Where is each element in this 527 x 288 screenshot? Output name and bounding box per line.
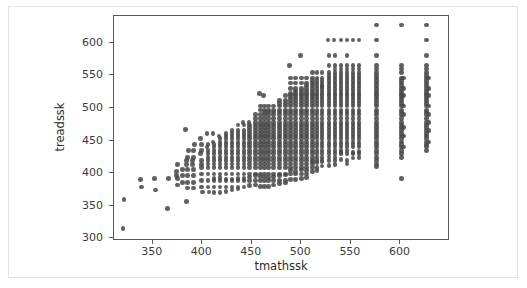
scatter-point <box>304 175 309 180</box>
scatter-point <box>327 131 332 136</box>
scatter-point <box>357 116 362 121</box>
y-axis-tick-label: 400 <box>82 166 103 179</box>
scatter-point <box>424 148 429 153</box>
scatter-point <box>374 67 379 72</box>
scatter-point <box>236 136 241 141</box>
scatter-point <box>374 78 379 83</box>
scatter-point <box>236 176 241 181</box>
scatter-point <box>299 116 304 121</box>
scatter-point <box>236 155 241 160</box>
scatter-point <box>310 169 315 174</box>
scatter-point <box>293 89 298 94</box>
scatter-point <box>333 53 338 58</box>
scatter-point <box>339 148 344 153</box>
scatter-point <box>293 81 298 86</box>
scatter-point <box>339 101 344 106</box>
scatter-point <box>283 136 288 141</box>
scatter-point <box>399 101 404 106</box>
scatter-point <box>351 83 356 88</box>
scatter-point <box>333 131 338 136</box>
scatter-point <box>345 142 350 147</box>
scatter-point <box>424 89 429 94</box>
y-axis-tick-label: 500 <box>82 100 103 113</box>
scatter-point <box>304 101 309 106</box>
scatter-point <box>304 116 309 121</box>
scatter-point <box>283 173 288 178</box>
scatter-point <box>304 96 309 101</box>
scatter-point <box>288 177 293 182</box>
scatter-point <box>185 167 190 172</box>
scatter-point <box>304 131 309 136</box>
scatter-point <box>253 116 258 121</box>
scatter-point <box>299 81 304 86</box>
scatter-point <box>304 136 309 141</box>
scatter-point <box>261 93 266 98</box>
scatter-point <box>424 53 429 58</box>
scatter-point <box>230 131 235 136</box>
scatter-point <box>345 38 350 43</box>
scatter-point <box>310 83 315 88</box>
scatter-point <box>299 136 304 141</box>
scatter-point <box>345 101 350 106</box>
x-axis-tick <box>201 240 202 244</box>
scatter-point <box>191 148 196 153</box>
scatter-point <box>299 155 304 160</box>
scatter-point <box>310 155 315 160</box>
scatter-point <box>299 162 304 167</box>
scatter-point <box>399 142 404 147</box>
scatter-point <box>374 131 379 136</box>
scatter-point <box>424 110 429 115</box>
scatter-point <box>288 81 293 86</box>
scatter-point <box>271 178 276 183</box>
scatter-point <box>253 183 258 188</box>
scatter-point <box>424 83 429 88</box>
scatter-point <box>298 53 303 58</box>
scatter-point <box>333 116 338 121</box>
scatter-point <box>253 173 258 178</box>
scatter-point <box>424 142 429 147</box>
scatter-point <box>242 176 247 181</box>
scatter-point <box>198 136 203 141</box>
scatter-point <box>333 78 338 83</box>
scatter-point <box>374 148 379 153</box>
scatter-point <box>399 110 404 115</box>
scatter-point <box>224 172 229 177</box>
scatter-point <box>327 63 332 68</box>
scatter-point <box>199 142 204 147</box>
scatter-point <box>374 123 379 128</box>
scatter-point <box>271 123 276 128</box>
scatter-point <box>175 183 180 188</box>
scatter-point <box>212 185 217 190</box>
scatter-point <box>320 148 325 153</box>
scatter-point <box>424 101 429 106</box>
x-axis-tick <box>300 240 301 244</box>
scatter-point <box>345 78 350 83</box>
scatter-point <box>242 185 247 190</box>
scatter-point <box>199 185 204 190</box>
scatter-point <box>288 86 293 91</box>
scatter-point <box>277 101 282 106</box>
scatter-point <box>310 96 315 101</box>
scatter-point <box>339 116 344 121</box>
scatter-point <box>424 136 429 141</box>
scatter-point <box>315 70 320 75</box>
x-axis-tick-label: 400 <box>191 245 212 258</box>
scatter-point <box>357 155 362 160</box>
scatter-point <box>299 148 304 153</box>
scatter-point <box>424 67 429 72</box>
scatter-point <box>199 172 204 177</box>
scatter-point <box>185 173 190 178</box>
scatter-point <box>236 187 241 192</box>
scatter-point <box>399 67 404 72</box>
scatter-point <box>399 83 404 88</box>
scatter-point <box>242 148 247 153</box>
scatter-point <box>304 76 309 81</box>
scatter-point <box>374 38 379 43</box>
scatter-point <box>242 123 247 128</box>
x-axis-label: tmathssk <box>113 259 449 273</box>
scatter-point <box>299 176 304 181</box>
scatter-point <box>345 136 350 141</box>
scatter-point <box>283 116 288 121</box>
scatter-point <box>247 148 252 153</box>
y-axis-tick <box>109 107 113 108</box>
